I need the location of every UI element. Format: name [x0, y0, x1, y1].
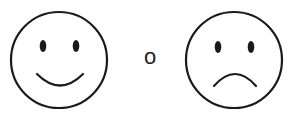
happy-face-icon [11, 12, 107, 108]
right-eye [73, 40, 80, 52]
left-eye [215, 41, 222, 53]
sad-face-icon [186, 12, 282, 108]
frown-mouth [214, 74, 256, 86]
left-eye [40, 40, 47, 52]
smile-mouth [37, 74, 83, 86]
separator-text: o [140, 44, 160, 70]
right-eye [248, 41, 255, 53]
